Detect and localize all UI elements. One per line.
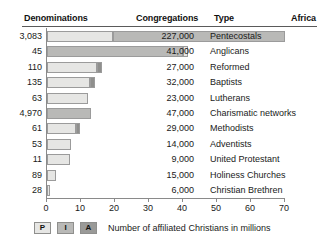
cell-congregations: 23,000 (118, 91, 194, 106)
cell-congregations: 227,000 (118, 29, 194, 44)
bar-segment-p (47, 123, 76, 134)
cell-denominations: 89 (0, 168, 42, 183)
cell-congregations: 29,000 (118, 121, 194, 136)
table-row: 13532,000Baptists (0, 75, 325, 90)
cell-congregations: 9,000 (118, 152, 194, 167)
bar-segment-p (47, 170, 56, 181)
bar-segment-p (47, 139, 71, 150)
x-tick (46, 198, 47, 202)
cell-congregations: 14,000 (118, 137, 194, 152)
cell-type: Charismatic networks (210, 106, 296, 121)
cell-type: Baptists (210, 75, 242, 90)
x-tick (216, 198, 217, 202)
bar-segment-a (90, 77, 94, 88)
cell-denominations: 4,970 (0, 106, 42, 121)
x-tick-label: 70 (274, 203, 294, 213)
x-tick (80, 198, 81, 202)
x-tick-label: 20 (104, 203, 124, 213)
legend-swatch-i[interactable]: I (57, 222, 74, 234)
cell-congregations: 32,000 (118, 75, 194, 90)
table-row: 4541,000Anglicans (0, 44, 325, 59)
x-tick (114, 198, 115, 202)
table-row: 11027,000Reformed (0, 60, 325, 75)
legend: P I A (34, 222, 97, 234)
cell-denominations: 11 (0, 152, 42, 167)
column-header-denominations: Denominations (24, 13, 88, 23)
cell-congregations: 6,000 (118, 183, 194, 198)
column-header-congregations: Congregations (136, 13, 198, 23)
x-tick-label: 60 (240, 203, 260, 213)
cell-denominations: 3,083 (0, 29, 42, 44)
bar-segment-i (47, 108, 91, 119)
legend-swatch-a[interactable]: A (80, 222, 97, 234)
axis-caption: Number of affiliated Christians in milli… (108, 223, 270, 233)
x-tick (250, 198, 251, 202)
cell-type: Holiness Churches (210, 168, 286, 183)
cell-congregations: 27,000 (118, 60, 194, 75)
header-divider (22, 26, 317, 27)
x-tick (182, 198, 183, 202)
cell-type: United Protestant (210, 152, 280, 167)
table-row: 4,97047,000Charismatic networks (0, 106, 325, 121)
cell-denominations: 45 (0, 44, 42, 59)
cell-denominations: 53 (0, 137, 42, 152)
cell-denominations: 61 (0, 121, 42, 136)
x-tick-label: 50 (206, 203, 226, 213)
cell-type: Lutherans (210, 91, 250, 106)
cell-congregations: 41,000 (118, 44, 194, 59)
bar-segment-p (47, 154, 70, 165)
bar-segment-p (47, 93, 88, 104)
cell-denominations: 135 (0, 75, 42, 90)
bar-segment-a (76, 123, 80, 134)
x-tick (148, 198, 149, 202)
bar-segment-p (47, 185, 50, 196)
table-row: 6129,000Methodists (0, 121, 325, 136)
bar-segment-a (97, 62, 102, 73)
table-row: 5314,000Adventists (0, 137, 325, 152)
denominations-chart: Denominations Congregations Type Africa … (0, 0, 325, 245)
cell-denominations: 110 (0, 60, 42, 75)
cell-type: Adventists (210, 137, 252, 152)
bar-segment-p (47, 77, 90, 88)
cell-type: Methodists (210, 121, 254, 136)
bar-segment-p (47, 31, 113, 42)
cell-denominations: 28 (0, 183, 42, 198)
table-row: 6323,000Lutherans (0, 91, 325, 106)
x-tick-label: 0 (36, 203, 56, 213)
x-tick (284, 198, 285, 202)
table-row: 3,083227,000Pentecostals (0, 29, 325, 44)
x-tick-label: 10 (70, 203, 90, 213)
cell-type: Christian Brethren (210, 183, 283, 198)
column-header-region: Africa (291, 13, 316, 23)
cell-congregations: 15,000 (118, 168, 194, 183)
table-row: 119,000United Protestant (0, 152, 325, 167)
cell-congregations: 47,000 (118, 106, 194, 121)
bar-segment-p (47, 62, 97, 73)
legend-swatch-p[interactable]: P (34, 222, 51, 234)
cell-type: Pentecostals (210, 29, 262, 44)
cell-denominations: 63 (0, 91, 42, 106)
column-header-type: Type (214, 13, 234, 23)
table-row: 286,000Christian Brethren (0, 183, 325, 198)
x-tick-label: 40 (172, 203, 192, 213)
cell-type: Anglicans (210, 44, 249, 59)
table-row: 8915,000Holiness Churches (0, 168, 325, 183)
x-tick-label: 30 (138, 203, 158, 213)
cell-type: Reformed (210, 60, 250, 75)
